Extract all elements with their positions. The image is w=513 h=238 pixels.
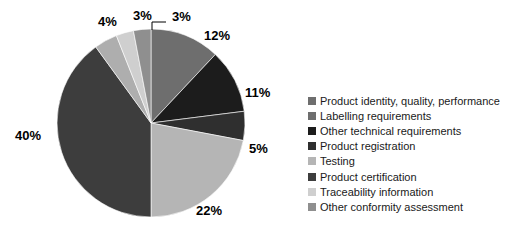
slice-value-label-5: 5% xyxy=(249,141,268,156)
legend-item-traceability-information[interactable]: Traceability information xyxy=(308,184,508,199)
legend-swatch-icon xyxy=(308,112,316,120)
legend-item-product-registration[interactable]: Product registration xyxy=(308,139,508,154)
legend-item-product-identity[interactable]: Product identity, quality, performance xyxy=(308,93,508,108)
slice-value-label-3b: 3% xyxy=(172,9,191,24)
legend-item-label: Product identity, quality, performance xyxy=(320,95,500,107)
legend-swatch-icon xyxy=(308,127,316,135)
slice-value-label-3a: 3% xyxy=(133,8,152,23)
slice-value-label-12: 12% xyxy=(204,28,230,43)
legend-item-label: Labelling requirements xyxy=(320,110,431,122)
legend-swatch-icon xyxy=(308,188,316,196)
legend-item-other-conformity-assessment[interactable]: Other conformity assessment xyxy=(308,199,508,214)
legend-swatch-icon xyxy=(308,157,316,165)
legend-item-label: Traceability information xyxy=(320,186,433,198)
legend-item-label: Other technical requirements xyxy=(320,125,461,137)
legend-swatch-icon xyxy=(308,97,316,105)
pie-chart-figure: 12% 11% 5% 22% 40% 4% 3% 3% Product iden… xyxy=(0,0,513,238)
legend-item-testing[interactable]: Testing xyxy=(308,154,508,169)
legend-item-label: Product certification xyxy=(320,171,417,183)
legend-swatch-icon xyxy=(308,142,316,150)
slice-value-label-22: 22% xyxy=(196,203,222,218)
slice-value-label-4: 4% xyxy=(98,14,117,29)
legend-item-labelling-requirements[interactable]: Labelling requirements xyxy=(308,108,508,123)
legend-item-label: Testing xyxy=(320,155,355,167)
pie-chart-svg xyxy=(0,0,300,238)
legend-swatch-icon xyxy=(308,203,316,211)
slice-value-label-40: 40% xyxy=(15,128,41,143)
pie-slices xyxy=(57,29,245,217)
legend-item-label: Product registration xyxy=(320,140,415,152)
slice-value-label-11: 11% xyxy=(245,85,270,100)
legend-item-product-certification[interactable]: Product certification xyxy=(308,169,508,184)
pie-chart-plot-area: 12% 11% 5% 22% 40% 4% 3% 3% xyxy=(0,0,300,238)
legend-swatch-icon xyxy=(308,173,316,181)
legend-item-label: Other conformity assessment xyxy=(320,201,463,213)
legend-item-other-technical-requirements[interactable]: Other technical requirements xyxy=(308,123,508,138)
chart-legend: Product identity, quality, performance L… xyxy=(308,93,508,215)
